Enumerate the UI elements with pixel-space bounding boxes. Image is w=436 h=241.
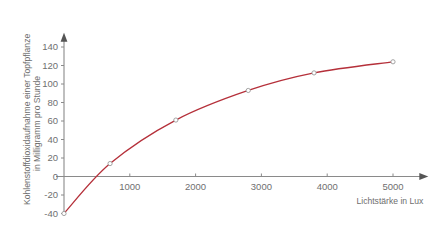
x-axis-tick-label: 2000 [185, 181, 206, 192]
y-axis-title-line2: in Milligramm pro Stunde [32, 76, 42, 171]
y-axis-tick-label: 80 [47, 97, 58, 108]
y-axis-tick-label: -40 [44, 208, 58, 219]
data-series-line [64, 62, 393, 214]
chart-container: -40-200204060801001201401000200030004000… [0, 0, 436, 241]
y-axis-tick-label: -20 [44, 189, 58, 200]
data-point-marker [391, 60, 395, 64]
data-point-marker [246, 88, 250, 92]
y-axis-tick-label: 40 [47, 134, 58, 145]
data-point-marker [62, 211, 66, 215]
y-axis-tick-label: 60 [47, 115, 58, 126]
data-point-marker [174, 118, 178, 122]
y-axis-tick-label: 100 [42, 78, 58, 89]
x-axis-tick-label: 1000 [119, 181, 140, 192]
x-axis-tick-label: 4000 [317, 181, 338, 192]
x-axis-title: Lichtstärke in Lux [356, 196, 424, 206]
y-axis-arrow [61, 33, 68, 42]
y-axis-tick-label: 20 [47, 152, 58, 163]
data-point-marker [108, 161, 112, 165]
y-axis-tick-label: 0 [53, 171, 58, 182]
data-point-marker [312, 71, 316, 75]
x-axis-arrow [419, 173, 428, 180]
x-axis-tick-label: 3000 [251, 181, 272, 192]
y-axis-tick-label: 120 [42, 60, 58, 71]
y-axis-tick-label: 140 [42, 41, 58, 52]
x-axis-tick-label: 5000 [382, 181, 403, 192]
chart-plot-area: -40-200204060801001201401000200030004000… [0, 0, 436, 241]
y-axis-title-line1: Kohlenstoffdioxidaufnahme einer Topfpfla… [22, 34, 32, 205]
